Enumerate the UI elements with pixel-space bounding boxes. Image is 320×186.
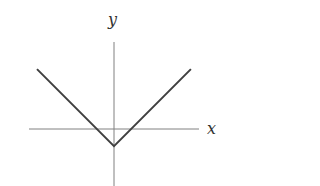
x-axis-label: x (207, 121, 216, 137)
y-axis-label: y (108, 12, 117, 28)
